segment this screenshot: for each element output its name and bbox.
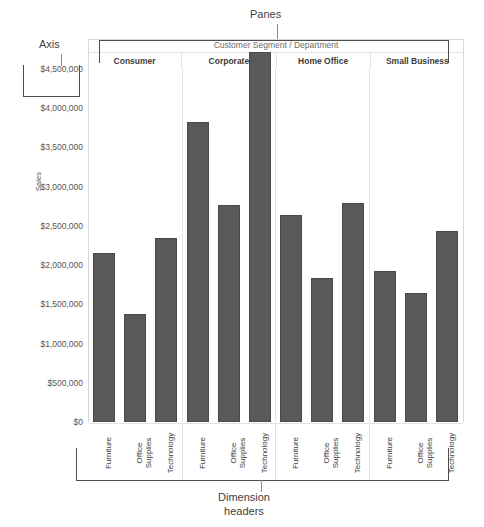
pane-consumer xyxy=(89,69,183,422)
bar-home-office-technology[interactable] xyxy=(342,203,364,422)
segment-header-consumer: Consumer xyxy=(88,53,182,68)
y-axis-tick-label: $4,500,000 xyxy=(40,64,83,74)
y-axis-tick-label: $1,500,000 xyxy=(40,299,83,309)
segment-header-home-office: Home Office xyxy=(277,53,371,68)
pane-corporate xyxy=(183,69,277,422)
y-axis-tick-label: $2,000,000 xyxy=(40,260,83,270)
bar-corporate-office-supplies[interactable] xyxy=(218,205,240,422)
bar-small-business-office-supplies[interactable] xyxy=(405,293,427,422)
y-axis-tick-label: $4,000,000 xyxy=(40,103,83,113)
bar-corporate-furniture[interactable] xyxy=(187,122,209,422)
segment-header-row: ConsumerCorporateHome OfficeSmall Busine… xyxy=(88,53,464,68)
bar-consumer-furniture[interactable] xyxy=(93,253,115,422)
segment-header-small-business: Small Business xyxy=(371,53,464,68)
pane-small-business xyxy=(370,69,464,422)
bar-home-office-office-supplies[interactable] xyxy=(311,278,333,422)
bar-home-office-furniture[interactable] xyxy=(280,215,302,422)
bar-small-business-technology[interactable] xyxy=(436,231,458,422)
y-axis-tick-label: $3,000,000 xyxy=(40,182,83,192)
panes-annotation-leader-line xyxy=(277,24,278,40)
pane-home-office xyxy=(276,69,370,422)
y-axis-tick-label: $3,500,000 xyxy=(40,142,83,152)
y-axis-title: Sales xyxy=(34,172,43,191)
bar-small-business-furniture[interactable] xyxy=(374,271,396,422)
y-axis: $4,500,000$4,000,000$3,500,000$3,000,000… xyxy=(0,69,88,422)
dimension-headers-annotation-bracket xyxy=(76,448,449,481)
bars-plot-area xyxy=(89,69,463,422)
bar-consumer-office-supplies[interactable] xyxy=(124,314,146,422)
bar-consumer-technology[interactable] xyxy=(155,238,177,422)
y-axis-tick-label: $2,500,000 xyxy=(40,221,83,231)
panes-annotation-label: Panes xyxy=(250,8,281,20)
dimension-headers-annotation-label: Dimension headers xyxy=(218,490,270,518)
bar-corporate-technology[interactable] xyxy=(249,52,271,422)
y-axis-tick-label: $0 xyxy=(74,417,83,427)
y-axis-tick-label: $500,000 xyxy=(48,378,83,388)
y-axis-tick-label: $1,000,000 xyxy=(40,339,83,349)
axis-annotation-label: Axis xyxy=(39,38,60,50)
